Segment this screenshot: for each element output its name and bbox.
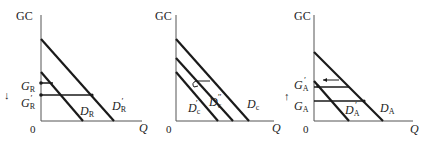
label-g-r-prime: GR′ xyxy=(21,93,36,111)
y-axis-label: GC xyxy=(155,9,172,23)
panel-rail: GC 0 GR GR′ ↓ DR DR′ Q xyxy=(4,9,148,135)
label-g-a-prime: GA′ xyxy=(294,75,309,93)
label-g-a: GA xyxy=(294,99,309,114)
origin-label: 0 xyxy=(303,123,309,135)
point-g-r xyxy=(39,81,43,85)
y-axis-label: GC xyxy=(294,9,311,23)
intersection-point xyxy=(362,99,365,102)
arrow-left-head-icon xyxy=(323,78,327,82)
panel-car: GC 0 Dc′ Dc″ Dc Q xyxy=(155,9,281,135)
intersection-point xyxy=(316,84,319,87)
label-g-r: GR xyxy=(21,79,36,94)
diagram-canvas: GC 0 GR GR′ ↓ DR DR′ Q GC 0 Dc′ Dc″ Dc xyxy=(0,0,427,148)
point-g-r-prime xyxy=(39,93,43,97)
label-d-r-prime: DR′ xyxy=(111,96,127,114)
label-d-c-double-prime: Dc″ xyxy=(208,92,222,110)
x-axis-label: Q xyxy=(139,121,148,135)
demand-curve-d-c-double-prime xyxy=(176,58,233,121)
x-axis-label: Q xyxy=(272,121,281,135)
label-d-c: Dc xyxy=(246,97,260,112)
arrow-down-icon: ↓ xyxy=(4,89,10,101)
label-d-r: DR xyxy=(79,104,95,119)
label-d-c-prime: Dc′ xyxy=(187,98,201,116)
label-d-a-prime: DA′ xyxy=(344,100,360,118)
demand-curve-d-r-prime xyxy=(41,39,114,121)
arrow-up-icon: ↑ xyxy=(284,90,290,102)
origin-label: 0 xyxy=(30,123,36,135)
intersection-point xyxy=(90,93,93,96)
label-d-a: DA xyxy=(379,101,395,116)
panel-air: GC 0 GA′ GA ↑ DA′ DA Q xyxy=(284,9,419,136)
x-axis-label: Q xyxy=(410,122,419,136)
origin-label: 0 xyxy=(166,123,172,135)
y-axis-label: GC xyxy=(16,9,33,23)
